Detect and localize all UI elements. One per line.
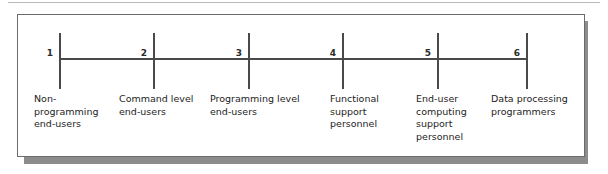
continuum-scale: 1 2 3 4 5 6 Non- programming end-users C… <box>18 15 586 158</box>
tick-mark-4 <box>342 33 344 89</box>
axis-line <box>59 58 526 60</box>
tick-label-1: 1 <box>29 48 53 58</box>
tick-mark-5 <box>437 33 439 89</box>
category-label-1: Non- programming end-users <box>34 93 126 131</box>
page-top-rule <box>8 2 600 3</box>
category-label-5: End-user computing support personnel <box>416 93 500 143</box>
category-label-6: Data processing programmers <box>491 93 587 118</box>
tick-label-6: 6 <box>496 48 520 58</box>
tick-mark-1 <box>59 33 61 89</box>
category-label-3: Programming level end-users <box>210 93 318 118</box>
category-label-2: Command level end-users <box>119 93 211 118</box>
tick-label-2: 2 <box>123 48 147 58</box>
tick-label-3: 3 <box>218 48 242 58</box>
figure-frame: 1 2 3 4 5 6 Non- programming end-users C… <box>17 14 585 157</box>
tick-label-4: 4 <box>312 48 336 58</box>
tick-label-5: 5 <box>407 48 431 58</box>
tick-mark-3 <box>248 33 250 89</box>
category-label-4: Functional support personnel <box>330 93 414 131</box>
tick-mark-2 <box>153 33 155 89</box>
tick-mark-6 <box>526 33 528 89</box>
